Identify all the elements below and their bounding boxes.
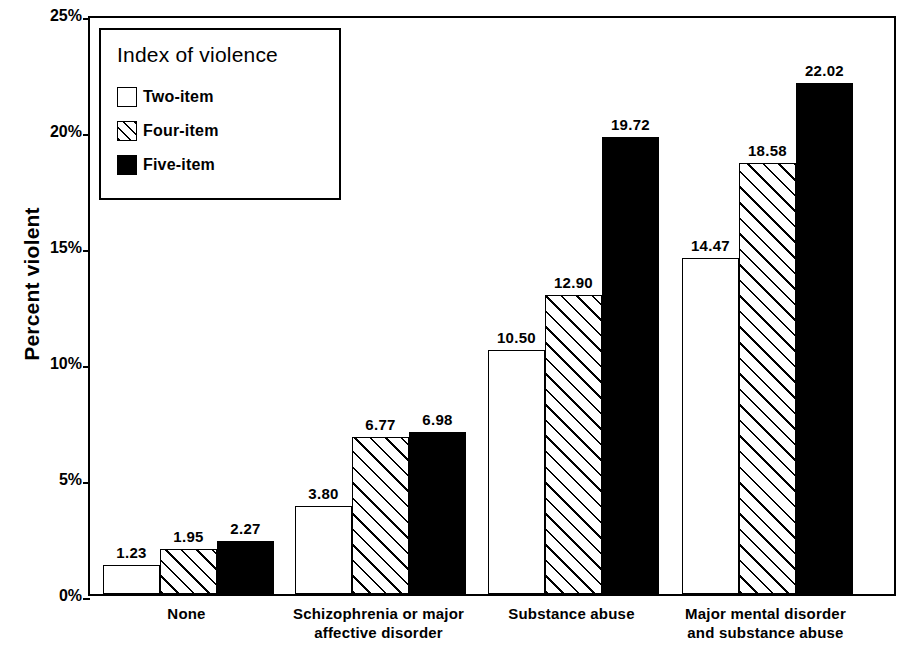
y-tick-label: 25%: [20, 7, 82, 25]
bar: 14.47: [682, 258, 739, 594]
legend-swatch-white: [117, 87, 137, 107]
legend-swatch-hatch: [117, 121, 137, 141]
bar-value-label: 22.02: [805, 62, 844, 79]
y-tick-label: 20%: [20, 123, 82, 141]
y-tick-mark: [83, 134, 90, 136]
y-axis-tick-labels: 0%5%10%15%20%25%: [20, 0, 82, 660]
bar-value-label: 2.27: [230, 520, 260, 537]
y-tick-mark: [83, 366, 90, 368]
legend-item-label: Five-item: [143, 156, 215, 174]
legend-item: Two-item: [117, 80, 331, 114]
bar: 6.98: [409, 432, 466, 594]
bar-value-label: 10.50: [497, 329, 536, 346]
y-tick-mark: [83, 250, 90, 252]
y-tick-label: 5%: [20, 471, 82, 489]
bar: 19.72: [602, 137, 659, 595]
legend-item-list: Two-itemFour-itemFive-item: [117, 80, 331, 182]
x-category-label-line: affective disorder: [264, 623, 494, 642]
bar: 12.90: [545, 295, 602, 594]
x-category-label: Major mental disorderand substance abuse: [651, 604, 881, 642]
bar-chart: Percent violent 0%5%10%15%20%25% 1.233.8…: [0, 0, 920, 660]
bar: 1.95: [160, 549, 217, 594]
x-category-label-line: and substance abuse: [651, 623, 881, 642]
bar: 22.02: [796, 83, 853, 594]
bar-value-label: 3.80: [308, 485, 338, 502]
bar-value-label: 1.95: [173, 528, 203, 545]
legend-item-label: Two-item: [143, 88, 214, 106]
bar: 3.80: [295, 506, 352, 594]
bar-value-label: 14.47: [691, 237, 730, 254]
bar-value-label: 6.77: [365, 416, 395, 433]
legend: Index of violence Two-itemFour-itemFive-…: [99, 28, 341, 200]
y-tick-mark: [83, 482, 90, 484]
y-tick-mark: [83, 598, 90, 600]
y-tick-mark: [83, 18, 90, 20]
legend-swatch-black: [117, 155, 137, 175]
legend-title: Index of violence: [117, 43, 278, 67]
bar-value-label: 12.90: [554, 274, 593, 291]
bar: 18.58: [739, 163, 796, 594]
y-tick-label: 0%: [20, 587, 82, 605]
legend-item: Five-item: [117, 148, 331, 182]
bar-value-label: 6.98: [422, 411, 452, 428]
bar-value-label: 18.58: [748, 142, 787, 159]
x-category-label-line: Major mental disorder: [651, 604, 881, 623]
legend-item-label: Four-item: [143, 122, 219, 140]
bar: 6.77: [352, 437, 409, 594]
bar-value-label: 1.23: [116, 544, 146, 561]
y-tick-label: 15%: [20, 239, 82, 257]
legend-item: Four-item: [117, 114, 331, 148]
bar: 1.23: [103, 565, 160, 594]
y-tick-label: 10%: [20, 355, 82, 373]
bar: 2.27: [217, 541, 274, 594]
bar: 10.50: [488, 350, 545, 594]
bar-value-label: 19.72: [611, 116, 650, 133]
